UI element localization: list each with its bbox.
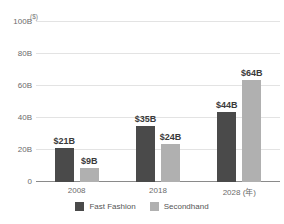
x-axis-tick-label: 2018 bbox=[149, 186, 167, 195]
y-axis-tick-label: 40B bbox=[18, 113, 32, 122]
chart-title-fragment bbox=[140, 0, 260, 4]
y-axis-tick-label: 60B bbox=[18, 81, 32, 90]
bar[interactable]: $9B bbox=[80, 168, 99, 182]
bar-value-label: $24B bbox=[160, 132, 182, 142]
legend-label: Fast Fashion bbox=[89, 202, 135, 211]
bar[interactable]: $21B bbox=[55, 148, 74, 182]
bar-value-label: $9B bbox=[81, 156, 98, 166]
x-axis-tick-label: 2008 bbox=[68, 186, 86, 195]
bar-column: $64B bbox=[242, 22, 261, 182]
bar-column: $21B bbox=[55, 22, 74, 182]
bar[interactable]: $35B bbox=[136, 126, 155, 182]
bar-value-label: $44B bbox=[216, 100, 238, 110]
bar-value-label: $21B bbox=[53, 136, 75, 146]
bar[interactable]: $24B bbox=[161, 144, 180, 182]
bar-value-label: $64B bbox=[241, 68, 263, 78]
legend-swatch-icon bbox=[150, 202, 159, 211]
bar-group: $21B$9B2008 bbox=[36, 22, 117, 182]
legend-swatch-icon bbox=[75, 202, 84, 211]
y-axis-tick-label: 100B bbox=[13, 17, 32, 26]
bar-column: $9B bbox=[80, 22, 99, 182]
bar[interactable]: $44B bbox=[217, 112, 236, 182]
bar[interactable]: $64B bbox=[242, 80, 261, 182]
legend-item-secondhand[interactable]: Secondhand bbox=[150, 202, 209, 211]
plot-area: 020B40B60B80B100B $21B$9B2008$35B$24B201… bbox=[36, 22, 280, 182]
y-axis-tick-label: 80B bbox=[18, 49, 32, 58]
y-axis-tick-label: 0 bbox=[28, 177, 32, 186]
bar-column: $44B bbox=[217, 22, 236, 182]
bar-group: $44B$64B2028 (年) bbox=[199, 22, 280, 182]
legend-item-fast-fashion[interactable]: Fast Fashion bbox=[75, 202, 135, 211]
bar-chart: ($) 020B40B60B80B100B $21B$9B2008$35B$24… bbox=[0, 0, 284, 224]
legend-label: Secondhand bbox=[164, 202, 209, 211]
bar-column: $24B bbox=[161, 22, 180, 182]
bar-group: $35B$24B2018 bbox=[117, 22, 198, 182]
chart-legend: Fast Fashion Secondhand bbox=[0, 202, 284, 211]
x-axis-tick-label: 2028 (年) bbox=[223, 186, 256, 197]
bar-value-label: $35B bbox=[135, 114, 157, 124]
bar-groups: $21B$9B2008$35B$24B2018$44B$64B2028 (年) bbox=[36, 22, 280, 182]
bar-column: $35B bbox=[136, 22, 155, 182]
y-axis-tick-label: 20B bbox=[18, 145, 32, 154]
